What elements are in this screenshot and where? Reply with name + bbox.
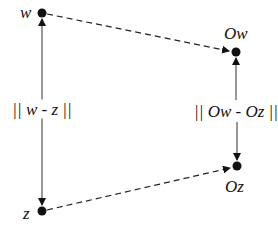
dashed-arrow-w-to-Ow	[47, 14, 229, 51]
distance-label-w-z: || w - z ||	[10, 100, 73, 119]
node-z	[38, 207, 47, 216]
dashed-arrow-z-to-Oz	[47, 168, 230, 210]
node-Ow	[232, 48, 241, 57]
distance-label-Ow-Oz: || Ow - Oz ||	[192, 102, 278, 121]
label-Ow: Ow	[224, 25, 248, 42]
node-Oz	[233, 162, 242, 171]
label-w: w	[20, 4, 31, 21]
label-z: z	[23, 205, 30, 222]
node-w	[38, 9, 47, 18]
label-Oz: Oz	[225, 178, 244, 195]
